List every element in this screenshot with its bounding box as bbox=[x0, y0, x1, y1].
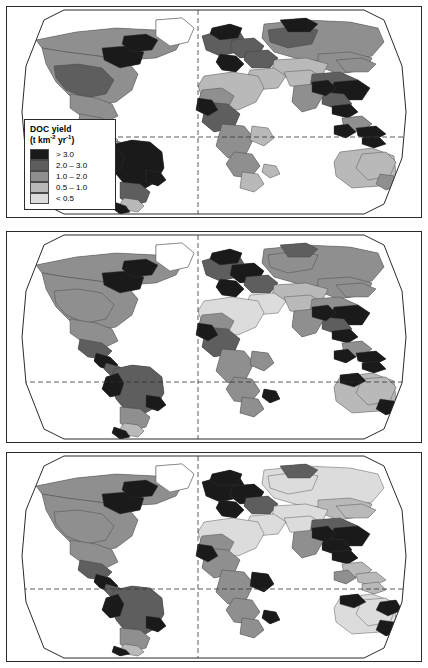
legend-item: 0.5 – 1.0 bbox=[30, 182, 110, 193]
legend-item-label: < 0.5 bbox=[56, 193, 74, 204]
legend-swatch-icon bbox=[30, 160, 49, 171]
legend-item: 2.0 – 3.0 bbox=[30, 160, 110, 171]
legend-item: > 3.0 bbox=[30, 149, 110, 160]
legend-item-label: 1.0 – 2.0 bbox=[56, 171, 87, 182]
legend-swatch-icon bbox=[30, 149, 49, 160]
world-map-poc bbox=[6, 231, 422, 443]
legend-item: 1.0 – 2.0 bbox=[30, 171, 110, 182]
figure-three-world-maps: DOC yield (t km-2 yr-1) > 3.0 2.0 – 3.0 … bbox=[0, 0, 428, 668]
legend-item-label: 0.5 – 1.0 bbox=[56, 182, 87, 193]
map-panel-doc: DOC yield (t km-2 yr-1) > 3.0 2.0 – 3.0 … bbox=[6, 6, 422, 218]
legend-units: (t km-2 yr-1) bbox=[30, 135, 110, 146]
map-stage-dic bbox=[6, 452, 422, 662]
legend-doc: DOC yield (t km-2 yr-1) > 3.0 2.0 – 3.0 … bbox=[24, 119, 116, 210]
legend-swatch-icon bbox=[30, 193, 49, 204]
legend-item-label: > 3.0 bbox=[56, 149, 74, 160]
map-panel-poc: POC yield (t km-2 yr-1) > 3.0 2.0 – 3.0 … bbox=[6, 231, 422, 443]
legend-swatch-icon bbox=[30, 182, 49, 193]
legend-swatch-icon bbox=[30, 171, 49, 182]
map-stage-poc bbox=[6, 231, 422, 443]
world-map-dic bbox=[6, 452, 422, 662]
legend-item: < 0.5 bbox=[30, 193, 110, 204]
legend-class-list: > 3.0 2.0 – 3.0 1.0 – 2.0 0.5 – 1.0 < 0.… bbox=[30, 149, 110, 204]
map-panel-dic: DIC yield (t km-2 yr-1) > 3.0 2.0 – 3.0 … bbox=[6, 452, 422, 662]
legend-item-label: 2.0 – 3.0 bbox=[56, 160, 87, 171]
